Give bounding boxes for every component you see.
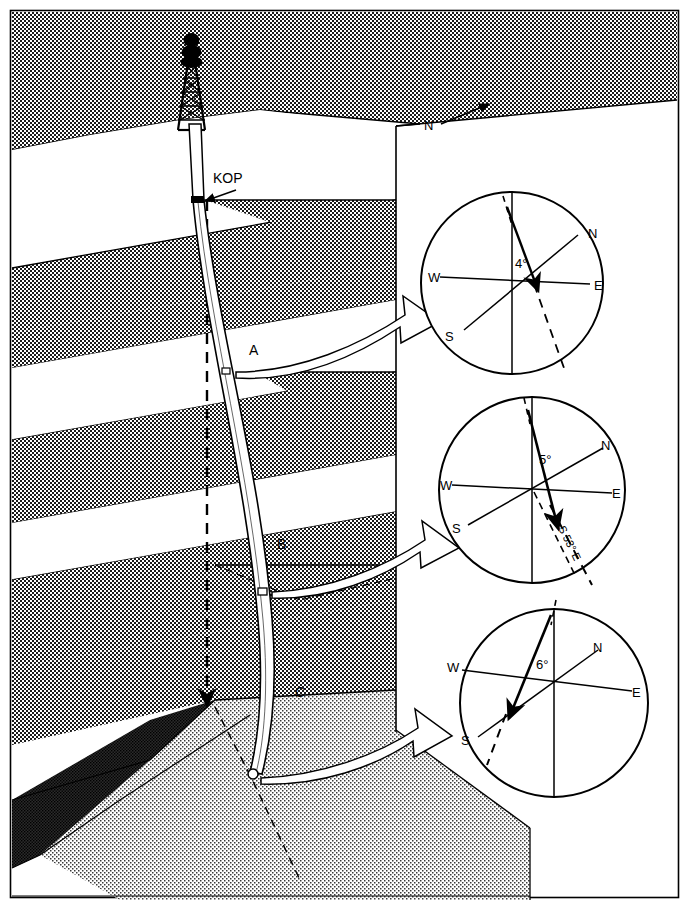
compass-b-south-label: S: [452, 521, 461, 536]
compass-b-angle-label: 5°: [539, 452, 551, 467]
station-c-marker: [248, 769, 258, 779]
compass-c-south-label: S: [461, 733, 470, 748]
compass-a-west-label: W: [428, 270, 441, 285]
compass-c-north-label: N: [593, 640, 602, 655]
compass-a: 4° N E S W: [421, 192, 603, 374]
station-b-marker: [258, 588, 267, 595]
compass-a-north-label: N: [588, 226, 597, 241]
compass-b-west-label: W: [440, 478, 453, 493]
compass-b-east-label: E: [612, 486, 621, 501]
compass-c-angle-label: 6°: [536, 657, 548, 672]
compass-c-west-label: W: [447, 660, 460, 675]
station-b-label: B: [277, 536, 286, 552]
figure-canvas: KOP A B C N 4° N E S W: [0, 0, 689, 908]
compass-a-east-label: E: [594, 278, 603, 293]
compass-a-south-label: S: [445, 329, 454, 344]
compass-b: 5° N E S W S 53° E: [439, 397, 625, 585]
station-a-label: A: [249, 342, 259, 358]
station-c-label: C: [295, 684, 305, 700]
compass-a-angle-label: 4°: [515, 256, 527, 271]
compass-c-east-label: E: [632, 685, 641, 700]
compass-b-north-label: N: [601, 438, 610, 453]
kop-label: KOP: [213, 170, 243, 186]
station-a-marker: [222, 368, 230, 374]
north-arrow-label: N: [424, 118, 433, 133]
